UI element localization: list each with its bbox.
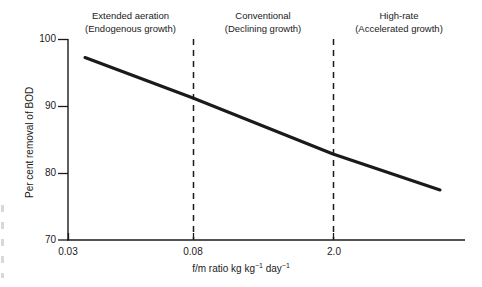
x-axis-label-middle: day	[263, 263, 282, 274]
x-tick-label-0.08: 0.08	[170, 247, 216, 257]
x-axis-label-sup2: −1	[282, 262, 290, 269]
y-tick-label-70: 70	[26, 235, 56, 245]
y-axis-label: Per cent removal of BOD	[24, 87, 35, 198]
x-axis-label-prefix: f/m ratio kg kg	[192, 263, 255, 274]
x-axis-label-sup1: −1	[255, 262, 263, 269]
bod-removal-chart: Extended aeration (Endogenous growth) Co…	[0, 0, 482, 287]
bod-removal-line	[85, 58, 440, 191]
x-axis-label: f/m ratio kg kg−1 day−1	[0, 263, 482, 274]
plot-area	[0, 0, 482, 287]
x-tick-label-2.0: 2.0	[311, 247, 357, 257]
y-tick-label-100: 100	[26, 34, 56, 44]
x-tick-label-0.03: 0.03	[45, 247, 91, 257]
